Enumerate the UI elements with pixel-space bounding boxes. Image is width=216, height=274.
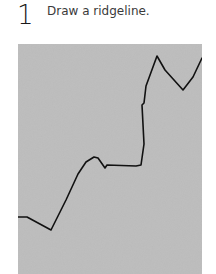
step-number: 1 (17, 2, 34, 28)
ridgeline-drawing (18, 44, 202, 274)
ridgeline-illustration (18, 44, 202, 274)
step-instruction: Draw a ridgeline. (47, 4, 150, 18)
